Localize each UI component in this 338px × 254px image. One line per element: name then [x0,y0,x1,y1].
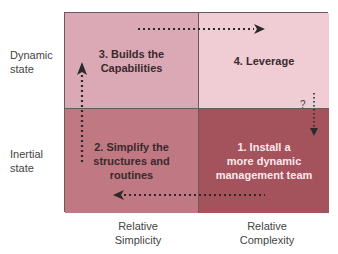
x-label-relative-simplicity: Relative Simplicity [108,219,168,247]
arrow-left-icon [113,190,265,200]
x-label-complexity-line1: Relative [232,219,302,233]
flow-arrows: ? [0,0,338,254]
x-label-complexity-line2: Complexity [232,233,302,247]
arrow-down-icon [310,93,318,136]
x-label-relative-complexity: Relative Complexity [232,219,302,247]
x-label-simplicity-line1: Relative [108,219,168,233]
x-label-simplicity-line2: Simplicity [108,233,168,247]
arrow-up-icon [77,62,87,164]
arrow-right-icon [138,24,265,34]
question-mark: ? [300,99,306,110]
